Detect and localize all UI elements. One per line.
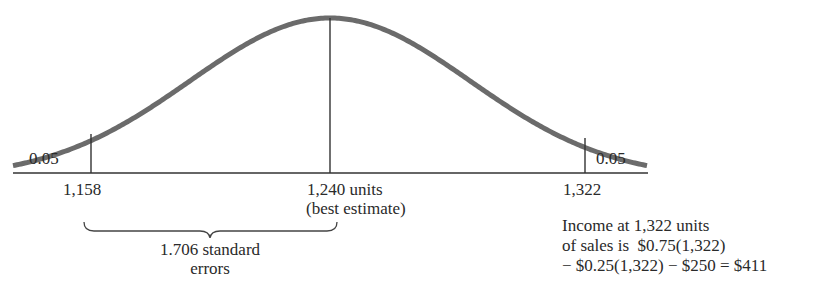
- brace-label-line1: 1.706 standard: [130, 240, 290, 259]
- brace-label-line2: errors: [130, 259, 290, 278]
- mean-label: 1,240 units: [307, 180, 383, 199]
- standard-error-brace: [84, 222, 337, 238]
- lower-bound-label: 1,158: [63, 180, 101, 199]
- income-annotation-line1: Income at 1,322 units: [562, 216, 709, 235]
- income-annotation-line2: of sales is $0.75(1,322): [562, 236, 725, 255]
- income-annotation-line3: − $0.25(1,322) − $250 = $411: [562, 256, 767, 275]
- upper-bound-label: 1,322: [563, 180, 601, 199]
- left-tail-probability: 0.05: [29, 149, 59, 168]
- right-tail-probability: 0.05: [596, 149, 626, 168]
- mean-sublabel: (best estimate): [306, 199, 406, 218]
